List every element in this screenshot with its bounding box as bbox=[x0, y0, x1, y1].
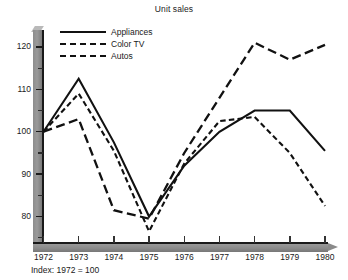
series-line-color-tv bbox=[44, 94, 326, 232]
series-line-autos bbox=[44, 43, 326, 219]
chart-footnote: Index: 1972 = 100 bbox=[31, 265, 99, 275]
plot-area bbox=[0, 0, 348, 280]
series-line-appliances bbox=[44, 79, 326, 217]
chart-container: Unit sales Appliances Color TV Autos 809… bbox=[0, 0, 348, 280]
